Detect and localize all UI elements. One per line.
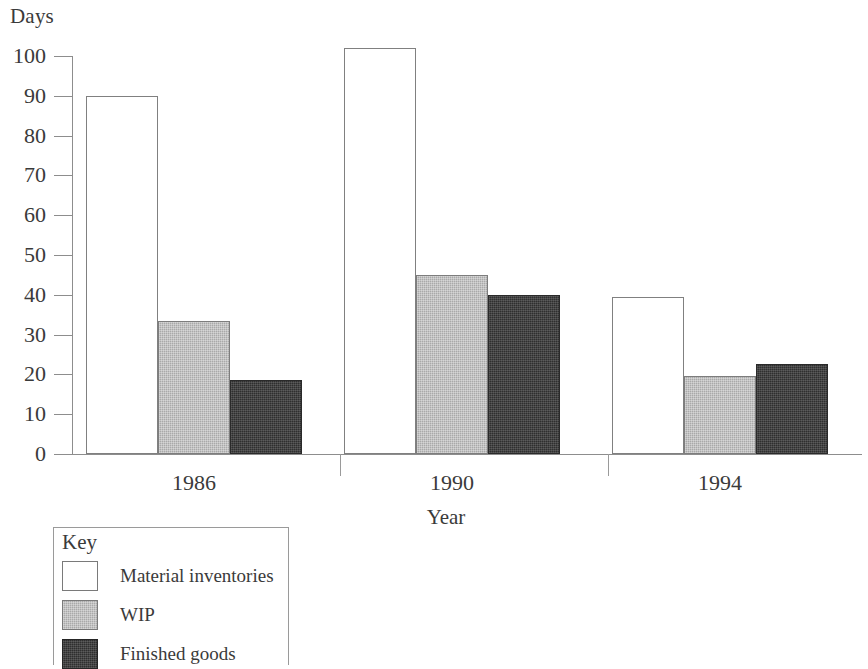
bar-1990-finished (488, 295, 560, 454)
y-axis-tick-label: 90 (0, 83, 46, 109)
y-axis-tick: 40 (54, 295, 72, 296)
y-axis-tick: 20 (54, 374, 72, 375)
y-axis-line (72, 56, 73, 454)
y-axis-tick-label: 60 (0, 202, 46, 228)
legend-title: Key (62, 530, 97, 555)
y-axis-tick: 30 (54, 335, 72, 336)
y-axis-tick-label: 40 (0, 282, 46, 308)
bar-1994-wip (684, 376, 756, 454)
legend-label: Material inventories (120, 565, 274, 587)
x-axis-line (54, 454, 862, 455)
legend-label: WIP (120, 604, 155, 626)
legend-item-material-inventories: Material inventories (62, 561, 288, 591)
y-axis-tick-label: 10 (0, 401, 46, 427)
x-axis-label-1994: 1994 (698, 470, 742, 496)
group-separator-tick (608, 454, 609, 476)
y-axis-tick-label: 100 (0, 43, 46, 69)
y-axis-tick-label: 80 (0, 123, 46, 149)
y-axis-title: Days (10, 4, 54, 29)
y-axis-tick-label: 20 (0, 361, 46, 387)
group-separator-tick (340, 454, 341, 476)
legend-item-finished-goods: Finished goods (62, 639, 288, 669)
plot-area: 0102030405060708090100 (72, 30, 862, 454)
legend-item-wip: WIP (62, 600, 288, 630)
y-axis-tick: 0 (54, 454, 72, 455)
legend-swatch-finished-icon (62, 639, 98, 669)
y-axis-tick-label: 0 (0, 441, 46, 467)
bar-1994-material (612, 297, 684, 454)
legend-label: Finished goods (120, 643, 236, 665)
bar-1990-wip (416, 275, 488, 454)
y-axis-tick: 100 (54, 56, 72, 57)
bar-1986-wip (158, 321, 230, 454)
y-axis-tick-label: 50 (0, 242, 46, 268)
y-axis-tick-label: 70 (0, 162, 46, 188)
legend-swatch-wip-icon (62, 600, 98, 630)
y-axis-tick: 50 (54, 255, 72, 256)
bar-1986-material (86, 96, 158, 454)
legend-swatch-material-icon (62, 561, 98, 591)
y-axis-tick: 80 (54, 136, 72, 137)
bar-1994-finished (756, 364, 828, 454)
y-axis-tick: 70 (54, 175, 72, 176)
x-axis-label-1990: 1990 (430, 470, 474, 496)
y-axis-tick-label: 30 (0, 322, 46, 348)
y-axis-tick: 60 (54, 215, 72, 216)
y-axis-tick: 10 (54, 414, 72, 415)
bar-1986-finished (230, 380, 302, 454)
bar-1990-material (344, 48, 416, 454)
x-axis-label-1986: 1986 (172, 470, 216, 496)
y-axis-tick: 90 (54, 96, 72, 97)
x-axis-title-text: Year (427, 505, 466, 529)
legend-box: Key Material inventories WIP Finished go… (53, 527, 289, 665)
